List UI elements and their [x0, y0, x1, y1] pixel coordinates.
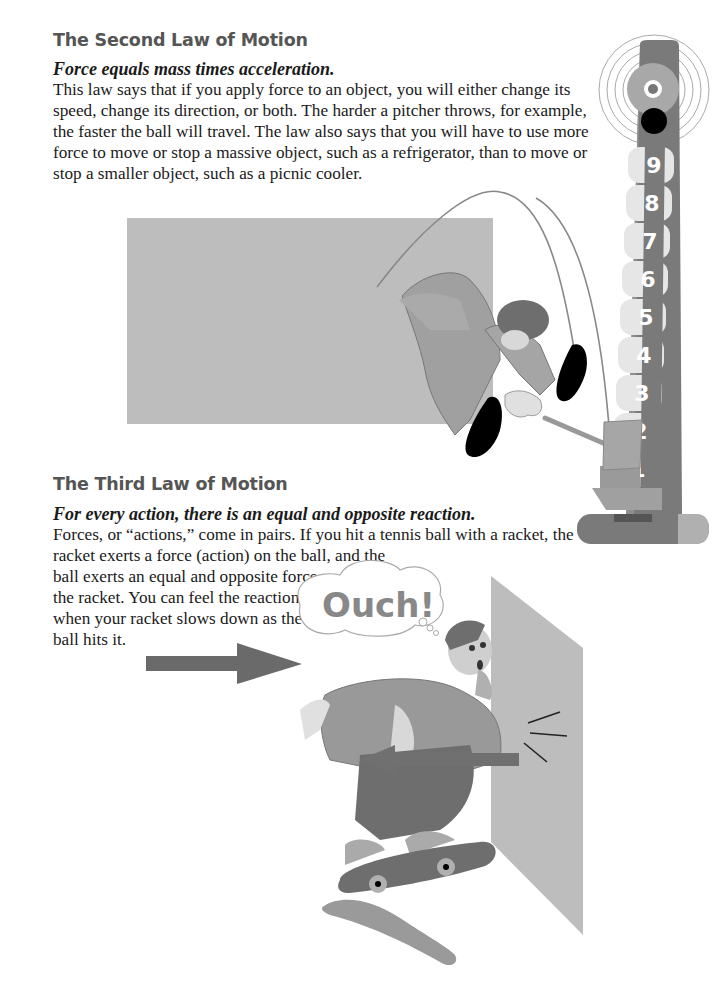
action-arrow-icon	[146, 643, 302, 684]
skateboarder-illustration: Ouch!	[0, 0, 721, 982]
skateboarder-icon	[300, 620, 501, 865]
falling-board-icon	[322, 900, 456, 965]
thought-bubble-icon: Ouch!	[298, 560, 443, 636]
speech-bubble-text: Ouch!	[322, 585, 435, 625]
